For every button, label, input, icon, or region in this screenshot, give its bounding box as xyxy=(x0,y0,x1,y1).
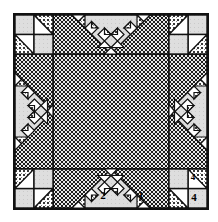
piece-label-1: 1 xyxy=(138,189,144,201)
left-arm-unit xyxy=(15,54,53,169)
top-arm-unit xyxy=(53,15,169,54)
quilt-block-svg: 2 1 4 4 xyxy=(15,15,207,208)
piece-label-4b: 4 xyxy=(191,191,197,203)
piece-label-4a: 4 xyxy=(191,172,196,182)
center-square xyxy=(53,54,169,169)
corner-unit-bottom-right xyxy=(169,169,207,208)
corner-unit-top-left xyxy=(15,15,53,54)
piece-label-2: 2 xyxy=(100,189,106,201)
right-arm-unit xyxy=(169,54,207,169)
corner-unit-bottom-left xyxy=(15,169,53,208)
bottom-arm-unit xyxy=(53,169,169,208)
quilt-block: 2 1 4 4 xyxy=(13,13,209,210)
diagram-canvas: 2 1 4 4 xyxy=(0,0,218,222)
corner-unit-top-right xyxy=(169,15,207,54)
